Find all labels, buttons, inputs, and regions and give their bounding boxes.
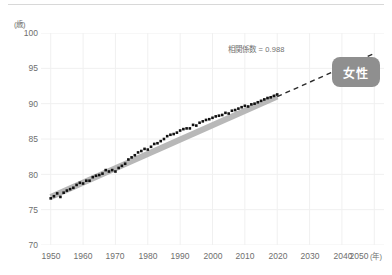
- y-axis-tick-95: 95: [12, 64, 38, 73]
- y-axis-tick-75: 75: [12, 206, 38, 215]
- top-divider: [8, 4, 384, 5]
- x-axis-tick-2010: 2010: [228, 252, 262, 261]
- trend-line-band: [51, 97, 278, 197]
- y-axis-tick-90: 90: [12, 100, 38, 109]
- y-axis-tick-80: 80: [12, 171, 38, 180]
- y-axis-tick-85: 85: [12, 135, 38, 144]
- y-axis-tick-100: 100: [12, 29, 38, 38]
- x-axis-tick-1980: 1980: [131, 252, 165, 261]
- x-axis-tick-2020: 2020: [261, 252, 295, 261]
- x-axis-tick-1950: 1950: [34, 252, 68, 261]
- x-axis-tick-1990: 1990: [163, 252, 197, 261]
- life-expectancy-scatter-chart: (歳) 100 95 90 85 80 75 70 1950 1960 1970…: [0, 0, 392, 275]
- y-axis-tick-70: 70: [12, 241, 38, 250]
- x-axis-tick-2030: 2030: [293, 252, 327, 261]
- correlation-annotation: 相関係数 = 0.988: [228, 43, 285, 54]
- x-axis-tick-2000: 2000: [196, 252, 230, 261]
- x-axis-tick-1970: 1970: [98, 252, 132, 261]
- x-axis-tick-1960: 1960: [66, 252, 100, 261]
- sex-badge: 女性: [332, 57, 380, 87]
- x-axis-unit-label: (年): [370, 252, 382, 261]
